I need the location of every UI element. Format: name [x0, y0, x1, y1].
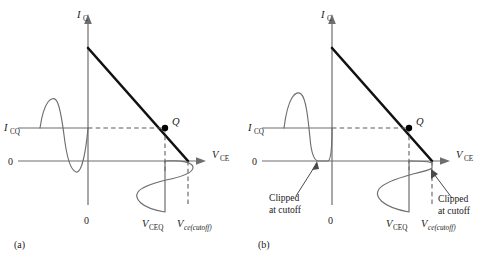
x-axis-label-a: V	[212, 149, 220, 160]
clipped-input-arrowhead-b	[312, 161, 319, 170]
y-axis-label-a: I	[76, 9, 81, 20]
x-axis-sublabel-b: CE	[464, 155, 474, 163]
x-axis-arrow-a	[196, 157, 206, 164]
clipped-input-line2-b: at cutoff	[269, 204, 302, 215]
panel-a: I C V CE I CQ 0 0 Q V CEQ V ce(cutoff) (…	[0, 0, 249, 263]
icq-label-a: I	[3, 122, 8, 133]
x-axis-sublabel-a: CE	[220, 155, 230, 163]
zero-label-y-b: 0	[252, 156, 257, 167]
y-axis-sublabel-a: C	[83, 15, 88, 23]
icq-sublabel-b: CQ	[254, 128, 265, 136]
vce-cutoff-sublabel-b: ce(cutoff)	[428, 224, 456, 232]
figure-load-line-clipping: I C V CE I CQ 0 0 Q V CEQ V ce(cutoff) (…	[0, 0, 497, 263]
zero-label-y-a: 0	[8, 156, 13, 167]
y-axis-sublabel-b: C	[327, 15, 332, 23]
clipped-output-line2-b: at cutoff	[438, 205, 471, 216]
vce-cutoff-sublabel-a: ce(cutoff)	[184, 224, 212, 232]
panel-caption-a: (a)	[14, 239, 25, 251]
clipped-output-line1-b: Clipped	[438, 193, 469, 204]
q-point-b	[406, 125, 412, 131]
panel-b: I C V CE I CQ 0 0 Q V CEQ V ce(cutoff) C…	[248, 0, 497, 263]
q-label-b: Q	[416, 116, 424, 127]
output-waveform-clipped-b	[378, 161, 432, 212]
dc-load-line-b	[332, 48, 432, 161]
zero-label-x-b: 0	[328, 215, 333, 226]
vceq-sublabel-b: CEQ	[393, 224, 408, 232]
dc-load-line-a	[88, 48, 188, 161]
y-axis-label-b: I	[320, 9, 325, 20]
panel-caption-b: (b)	[258, 239, 270, 251]
clipped-input-line1-b: Clipped	[269, 192, 300, 203]
x-axis-arrow-b	[440, 157, 450, 164]
icq-label-b: I	[248, 122, 252, 133]
q-label-a: Q	[172, 116, 180, 127]
vceq-sublabel-a: CEQ	[149, 224, 164, 232]
icq-sublabel-a: CQ	[10, 128, 21, 136]
input-waveform-clipped-b	[284, 93, 332, 161]
q-point-a	[162, 125, 168, 131]
zero-label-x-a: 0	[84, 215, 89, 226]
x-axis-label-b: V	[456, 149, 464, 160]
